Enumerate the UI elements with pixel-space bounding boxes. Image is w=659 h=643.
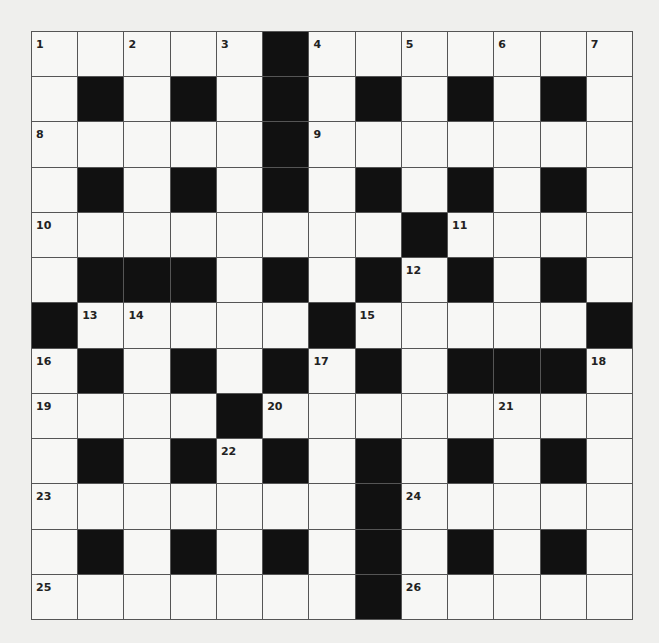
crossword-cell[interactable] [32, 168, 77, 212]
crossword-cell[interactable] [587, 258, 632, 302]
crossword-cell[interactable] [309, 575, 354, 619]
crossword-cell[interactable] [356, 122, 401, 166]
crossword-cell[interactable]: 22 [217, 439, 262, 483]
crossword-cell[interactable] [587, 575, 632, 619]
crossword-cell[interactable]: 15 [356, 303, 401, 347]
crossword-cell[interactable] [309, 484, 354, 528]
crossword-cell[interactable] [309, 168, 354, 212]
crossword-cell[interactable] [263, 213, 308, 257]
crossword-cell[interactable] [124, 439, 169, 483]
crossword-cell[interactable]: 7 [587, 32, 632, 76]
crossword-cell[interactable]: 8 [32, 122, 77, 166]
crossword-cell[interactable] [494, 258, 539, 302]
crossword-cell[interactable] [171, 303, 216, 347]
crossword-cell[interactable] [356, 213, 401, 257]
crossword-cell[interactable] [78, 394, 123, 438]
crossword-cell[interactable] [587, 213, 632, 257]
crossword-cell[interactable]: 23 [32, 484, 77, 528]
crossword-cell[interactable] [217, 349, 262, 393]
crossword-cell[interactable]: 12 [402, 258, 447, 302]
crossword-cell[interactable] [541, 122, 586, 166]
crossword-cell[interactable] [402, 122, 447, 166]
crossword-cell[interactable] [402, 303, 447, 347]
crossword-cell[interactable] [171, 122, 216, 166]
crossword-cell[interactable] [124, 530, 169, 574]
crossword-cell[interactable] [541, 394, 586, 438]
crossword-cell[interactable] [356, 394, 401, 438]
crossword-cell[interactable] [32, 77, 77, 121]
crossword-cell[interactable] [448, 394, 493, 438]
crossword-cell[interactable] [309, 77, 354, 121]
crossword-cell[interactable] [494, 439, 539, 483]
crossword-cell[interactable] [448, 484, 493, 528]
crossword-cell[interactable] [171, 394, 216, 438]
crossword-cell[interactable] [587, 394, 632, 438]
crossword-cell[interactable] [309, 394, 354, 438]
crossword-cell[interactable] [494, 122, 539, 166]
crossword-cell[interactable] [124, 168, 169, 212]
crossword-cell[interactable] [309, 439, 354, 483]
crossword-cell[interactable]: 14 [124, 303, 169, 347]
crossword-cell[interactable] [494, 530, 539, 574]
crossword-cell[interactable] [171, 32, 216, 76]
crossword-cell[interactable] [309, 530, 354, 574]
crossword-cell[interactable] [541, 213, 586, 257]
crossword-cell[interactable] [217, 122, 262, 166]
crossword-cell[interactable] [217, 484, 262, 528]
crossword-cell[interactable] [78, 122, 123, 166]
crossword-cell[interactable] [217, 213, 262, 257]
crossword-cell[interactable]: 3 [217, 32, 262, 76]
crossword-cell[interactable] [263, 575, 308, 619]
crossword-cell[interactable]: 10 [32, 213, 77, 257]
crossword-cell[interactable] [587, 439, 632, 483]
crossword-cell[interactable] [494, 168, 539, 212]
crossword-cell[interactable] [402, 168, 447, 212]
crossword-cell[interactable]: 1 [32, 32, 77, 76]
crossword-cell[interactable] [124, 575, 169, 619]
crossword-cell[interactable] [448, 122, 493, 166]
crossword-cell[interactable] [541, 484, 586, 528]
crossword-cell[interactable] [448, 303, 493, 347]
crossword-cell[interactable]: 19 [32, 394, 77, 438]
crossword-cell[interactable]: 21 [494, 394, 539, 438]
crossword-cell[interactable] [402, 349, 447, 393]
crossword-cell[interactable]: 18 [587, 349, 632, 393]
crossword-cell[interactable] [309, 213, 354, 257]
crossword-cell[interactable] [494, 77, 539, 121]
crossword-cell[interactable] [217, 575, 262, 619]
crossword-cell[interactable] [356, 32, 401, 76]
crossword-cell[interactable] [124, 349, 169, 393]
crossword-cell[interactable] [494, 484, 539, 528]
crossword-cell[interactable] [124, 484, 169, 528]
crossword-cell[interactable]: 5 [402, 32, 447, 76]
crossword-cell[interactable] [171, 484, 216, 528]
crossword-cell[interactable]: 2 [124, 32, 169, 76]
crossword-cell[interactable] [32, 530, 77, 574]
crossword-cell[interactable] [541, 575, 586, 619]
crossword-cell[interactable] [124, 394, 169, 438]
crossword-cell[interactable] [402, 439, 447, 483]
crossword-cell[interactable] [494, 575, 539, 619]
crossword-cell[interactable] [541, 32, 586, 76]
crossword-cell[interactable] [78, 213, 123, 257]
crossword-cell[interactable] [587, 77, 632, 121]
crossword-cell[interactable]: 17 [309, 349, 354, 393]
crossword-cell[interactable] [494, 213, 539, 257]
crossword-cell[interactable] [263, 484, 308, 528]
crossword-cell[interactable]: 11 [448, 213, 493, 257]
crossword-cell[interactable] [217, 530, 262, 574]
crossword-cell[interactable] [78, 484, 123, 528]
crossword-cell[interactable] [402, 530, 447, 574]
crossword-cell[interactable] [587, 122, 632, 166]
crossword-cell[interactable] [124, 122, 169, 166]
crossword-cell[interactable] [402, 77, 447, 121]
crossword-cell[interactable] [448, 32, 493, 76]
crossword-cell[interactable] [78, 32, 123, 76]
crossword-cell[interactable] [263, 303, 308, 347]
crossword-cell[interactable]: 24 [402, 484, 447, 528]
crossword-cell[interactable]: 4 [309, 32, 354, 76]
crossword-cell[interactable] [587, 168, 632, 212]
crossword-cell[interactable]: 25 [32, 575, 77, 619]
crossword-cell[interactable] [124, 213, 169, 257]
crossword-cell[interactable] [402, 394, 447, 438]
